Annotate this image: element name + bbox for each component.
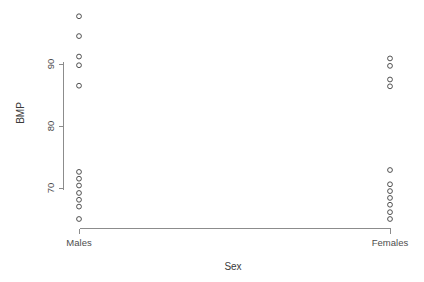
y-axis-title: BMP [15, 102, 26, 124]
x-tick-label-males: Males [66, 237, 92, 248]
data-point [77, 169, 82, 174]
data-point [77, 183, 82, 188]
data-point [77, 54, 82, 59]
data-point [388, 189, 393, 194]
data-point [388, 63, 393, 68]
data-point [77, 204, 82, 209]
data-point [388, 77, 393, 82]
data-point [388, 217, 393, 222]
data-point [388, 56, 393, 61]
data-points-males [77, 14, 82, 222]
data-point [77, 217, 82, 222]
data-point [77, 176, 82, 181]
y-axis-ticks: 708090 [45, 59, 64, 194]
plot-canvas: 708090 BMP Sex Males Females [0, 0, 424, 282]
data-point [388, 210, 393, 215]
y-tick-label: 70 [45, 183, 56, 194]
data-points-females [388, 56, 393, 221]
data-point [388, 84, 393, 89]
x-tick-label-females: Females [372, 237, 409, 248]
data-point [77, 191, 82, 196]
data-point [77, 34, 82, 39]
data-point [77, 63, 82, 68]
data-point [388, 182, 393, 187]
data-point [77, 197, 82, 202]
scatter-plot-figure: 708090 BMP Sex Males Females [0, 0, 424, 282]
data-point [77, 83, 82, 88]
data-point [388, 196, 393, 201]
y-tick-label: 90 [45, 59, 56, 70]
y-tick-label: 80 [45, 121, 56, 132]
x-axis-title: Sex [224, 261, 241, 272]
x-axis-ticks [80, 229, 391, 234]
data-point [388, 202, 393, 207]
data-point [77, 14, 82, 19]
data-point [388, 168, 393, 173]
